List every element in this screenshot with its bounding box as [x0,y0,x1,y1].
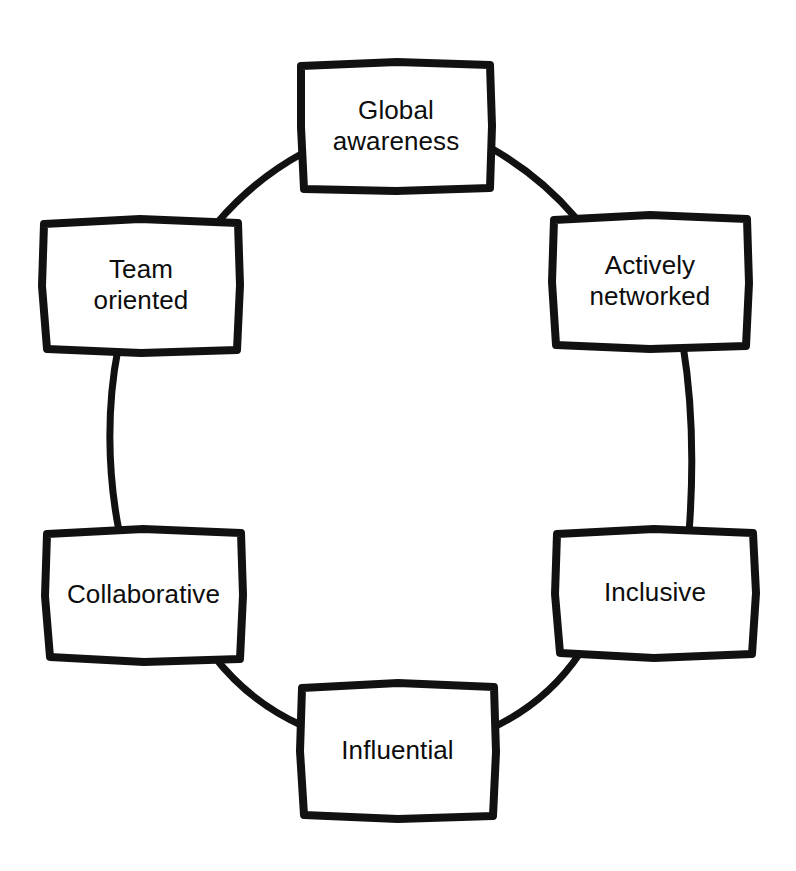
node-box-team-oriented[interactable] [42,219,240,353]
node-box-influential[interactable] [300,683,496,819]
connector-influential-to-collaborative [213,655,303,726]
node-box-inclusive[interactable] [555,529,756,658]
connector-inclusive-to-influential [492,653,580,728]
node-box-collaborative[interactable] [45,529,243,662]
node-box-global-awareness[interactable] [301,62,492,191]
connector-team-to-global [217,153,303,223]
node-box-actively-networked[interactable] [552,215,749,349]
connector-collaborative-to-team [110,349,119,531]
connector-networked-to-inclusive [683,345,692,533]
cycle-diagram: Global awareness Actively networked Incl… [0,0,796,871]
connector-global-to-networked [489,147,575,217]
diagram-canvas [0,0,796,871]
